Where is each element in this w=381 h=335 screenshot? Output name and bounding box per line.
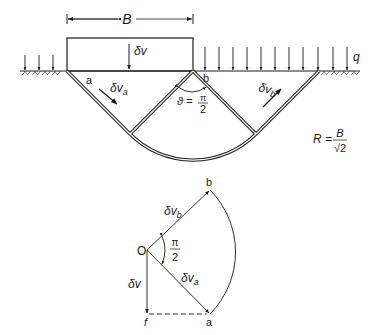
surcharge-label: q	[353, 50, 360, 64]
hodograph-angle-arc	[162, 236, 165, 264]
svg-text:2: 2	[200, 103, 206, 115]
hodograph-vec-a-label: δva	[181, 271, 199, 287]
width-dimension: B	[67, 11, 193, 27]
hodograph-arc	[210, 190, 236, 314]
hodograph-origin-label: O	[137, 244, 146, 258]
hodograph-angle-den: 2	[172, 251, 178, 263]
svg-text:B: B	[336, 127, 343, 139]
footing-displacement-label: δv	[134, 44, 148, 58]
fan-angle-arc	[178, 87, 206, 92]
svg-text:√2: √2	[334, 142, 346, 154]
footing: δv	[67, 38, 193, 71]
width-label: B	[122, 11, 131, 27]
right-surcharge-arrows	[205, 47, 347, 70]
left-ground-hatch	[22, 71, 61, 75]
fan-angle-label: ϑ = π 2	[177, 93, 208, 115]
svg-text:R =: R =	[313, 132, 332, 146]
velocity-b-label: δvb	[257, 80, 278, 99]
hodograph-b-label: b	[206, 176, 212, 188]
svg-text:ϑ =: ϑ =	[177, 95, 193, 107]
hodograph-a-label: a	[206, 316, 213, 328]
svg-text:π: π	[200, 93, 206, 103]
left-surcharge-arrows	[25, 55, 53, 70]
hodograph-vec-v-label: δv	[128, 277, 142, 291]
hodograph-vec-b-label: δvb	[164, 204, 182, 220]
bearing-capacity-diagram: B δv q	[0, 0, 381, 335]
wedge-b-label: b	[203, 72, 209, 84]
right-ground-hatch	[321, 71, 360, 75]
velocity-a-label: δva	[110, 81, 128, 97]
wedge-a-label: a	[86, 74, 93, 86]
failure-mechanism	[67, 71, 319, 160]
hodograph: O b a f δvb δva δv π 2	[128, 176, 236, 328]
radius-formula: R = B √2	[313, 127, 347, 154]
hodograph-f-label: f	[144, 316, 148, 328]
hodograph-angle-num: π	[172, 237, 179, 248]
